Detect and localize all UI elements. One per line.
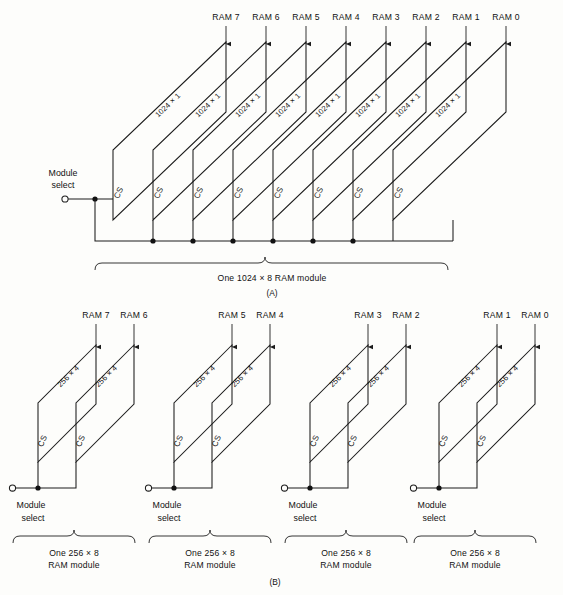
ram-label-b-3-0: RAM 1 [483,310,511,320]
bus-junction-a-1 [190,238,195,243]
module-select-junction-b-1 [171,485,176,490]
part-a-module-select: Module select [49,168,113,202]
module-select-junction-b-2 [307,485,312,490]
module-select-terminal-b-1 [145,485,151,491]
ram-label-b-1-1: RAM 4 [256,310,284,320]
part-a: RAM 7 RAM 6 RAM 5 RAM 4 RAM 3 RAM 2 RAM … [49,12,520,298]
part-a-chip-4: 1024 × 1 CS [272,42,386,220]
part-b-caption-0-line1: One 256 × 8 [49,548,99,558]
figure-canvas: RAM 7 RAM 6 RAM 5 RAM 4 RAM 3 RAM 2 RAM … [0,0,563,595]
part-a-brace: One 1024 × 8 RAM module [95,257,448,283]
part-b-caption-2-line2: RAM module [320,560,372,570]
chip-select-label-a-6: CS [352,185,365,200]
part-b-caption-3-line2: RAM module [449,560,501,570]
part-b-group-1: RAM 5 RAM 4 256 × 4 CS 256 × 4 CS Module… [145,310,283,570]
ram-module-figure: RAM 7 RAM 6 RAM 5 RAM 4 RAM 3 RAM 2 RAM … [0,0,563,595]
part-a-chip-6: 1024 × 1 CS [352,42,466,220]
part-a-chip-7: 1024 × 1 CS [392,42,506,220]
part-b-group-2: RAM 3 RAM 2 256 × 4 CS 256 × 4 CS Module… [281,310,419,570]
bus-junction-a-5 [350,238,355,243]
bus-junction-a-2 [230,238,235,243]
chip-size-label-a-2: 1024 × 1 [233,91,262,119]
part-b-caption-0-line2: RAM module [48,560,100,570]
module-select-terminal-b-0 [9,485,15,491]
part-b: RAM 7 RAM 6 256 × 4 CS 256 × 4 CS Module… [9,310,548,587]
part-a-label: (A) [266,288,277,298]
part-b-label: (B) [269,577,280,587]
part-a-chip-2: 1024 × 1 CS [192,42,306,220]
part-a-chip-3: 1024 × 1 CS [232,42,346,220]
chip-size-label-a-5: 1024 × 1 [353,91,382,119]
ram-label-a-2: RAM 5 [292,12,320,22]
module-select-terminal-a [62,196,68,202]
part-a-caption: One 1024 × 8 RAM module [218,273,327,283]
chip-select-label-a-7: CS [392,185,405,200]
ram-label-a-6: RAM 1 [452,12,480,22]
chip-size-label-a-4: 1024 × 1 [313,91,342,119]
ram-label-a-0: RAM 7 [212,12,240,22]
module-select-label-b-3-line2: select [423,513,447,523]
chip-size-label-b-2-1: 256 × 4 [366,364,391,389]
part-b-caption-3-line1: One 256 × 8 [450,548,500,558]
chip-select-label-a-2: CS [192,185,205,200]
ram-label-a-7: RAM 0 [492,12,520,22]
part-a-data-arrows [226,26,506,44]
module-select-junction-b-3 [436,485,441,490]
part-a-ram-arrow-labels: RAM 7 RAM 6 RAM 5 RAM 4 RAM 3 RAM 2 RAM … [212,12,520,22]
module-select-label-b-2-line2: select [294,513,318,523]
ram-label-b-0-0: RAM 7 [82,310,110,320]
bus-junction-a-4 [310,238,315,243]
ram-label-b-3-1: RAM 0 [521,310,549,320]
chip-select-label-a-3: CS [232,185,245,200]
part-a-chip-select-bus [95,199,453,244]
chip-size-label-a-3: 1024 × 1 [273,91,302,119]
bus-junction-a-3 [270,238,275,243]
module-select-terminal-b-3 [410,485,416,491]
chip-select-label-a-1: CS [152,185,165,200]
chip-size-label-b-3-0: 256 × 4 [457,364,482,389]
chip-size-label-b-1-0: 256 × 4 [192,364,217,389]
chip-size-label-a-1: 1024 × 1 [193,91,222,119]
ram-label-b-2-1: RAM 2 [392,310,420,320]
chip-size-label-b-1-1: 256 × 4 [230,364,255,389]
part-b-group-3: RAM 1 RAM 0 256 × 4 CS 256 × 4 CS Module… [410,310,548,570]
bus-junction-a-0 [150,238,155,243]
chip-size-label-a-6: 1024 × 1 [393,91,422,119]
module-select-label-a-line2: select [52,180,76,190]
chip-size-label-a-7: 1024 × 1 [433,91,462,119]
module-select-label-b-0-line1: Module [17,500,46,510]
part-b-caption-2-line1: One 256 × 8 [321,548,371,558]
part-b-group-0: RAM 7 RAM 6 256 × 4 CS 256 × 4 CS Module… [9,310,147,570]
module-select-label-b-1-line2: select [158,513,182,523]
module-select-label-b-2-line1: Module [289,500,318,510]
module-select-label-a-line1: Module [49,168,78,178]
chip-size-label-b-0-1: 256 × 4 [94,364,119,389]
part-a-chip-5: 1024 × 1 CS [312,42,426,220]
chip-size-label-b-2-0: 256 × 4 [328,364,353,389]
ram-label-b-0-1: RAM 6 [120,310,148,320]
chip-size-label-b-0-0: 256 × 4 [56,364,81,389]
module-select-terminal-b-2 [281,485,287,491]
chip-size-label-b-3-1: 256 × 4 [495,364,520,389]
chip-size-label-a-0: 1024 × 1 [153,91,182,119]
module-select-junction-b-0 [35,485,40,490]
chip-select-label-a-5: CS [312,185,325,200]
module-select-label-b-3-line1: Module [418,500,447,510]
ram-label-a-4: RAM 3 [372,12,400,22]
part-b-caption-1-line1: One 256 × 8 [185,548,235,558]
part-a-chip-0: 1024 × 1 CS [112,42,226,220]
ram-label-a-3: RAM 4 [332,12,360,22]
ram-label-b-1-0: RAM 5 [218,310,246,320]
part-a-chip-1: 1024 × 1 CS [152,42,266,220]
ram-label-b-2-0: RAM 3 [354,310,382,320]
chip-select-label-a-0: CS [112,185,125,200]
module-select-label-b-0-line2: select [22,513,46,523]
ram-label-a-5: RAM 2 [412,12,440,22]
module-select-label-b-1-line1: Module [153,500,182,510]
part-b-caption-1-line2: RAM module [184,560,236,570]
ram-label-a-1: RAM 6 [252,12,280,22]
chip-select-label-a-4: CS [272,185,285,200]
